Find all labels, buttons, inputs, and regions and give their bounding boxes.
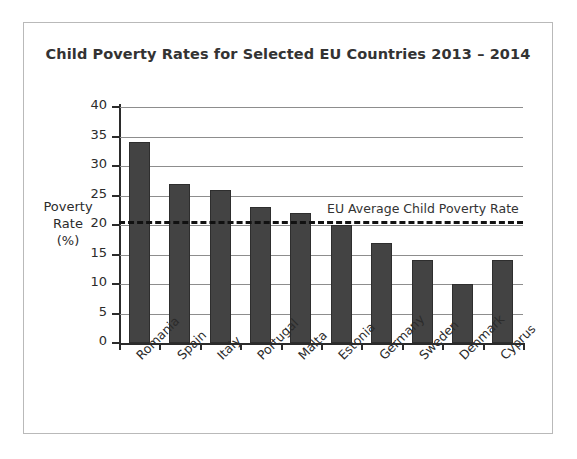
gridline <box>119 107 523 108</box>
y-axis-tick: 10 <box>112 283 120 285</box>
gridline <box>119 166 523 167</box>
chart-figure: Child Poverty Rates for Selected EU Coun… <box>0 0 577 459</box>
y-axis-tick-label: 5 <box>99 304 107 319</box>
y-axis-tick: 5 <box>112 313 120 315</box>
y-axis-tick: 30 <box>112 165 120 167</box>
x-axis-tick <box>119 343 121 350</box>
y-axis-tick-label: 30 <box>90 156 107 171</box>
y-axis-tick-label: 25 <box>90 186 107 201</box>
y-axis-tick: 25 <box>112 195 120 197</box>
y-axis-tick-label: 10 <box>90 274 107 289</box>
y-axis-label-line-1: Poverty <box>28 198 108 215</box>
y-axis-tick: 15 <box>112 254 120 256</box>
bar <box>210 190 231 343</box>
y-axis-tick-label: 35 <box>90 127 107 142</box>
y-axis-tick-label: 20 <box>90 215 107 230</box>
y-axis-tick-label: 15 <box>90 245 107 260</box>
plot-area: 0510152025303540 RomaniaSpainItalyPortug… <box>119 107 523 343</box>
chart-title: Child Poverty Rates for Selected EU Coun… <box>23 46 553 62</box>
y-axis-tick-label: 40 <box>90 97 107 112</box>
bar <box>331 225 352 343</box>
eu-average-label: EU Average Child Poverty Rate <box>327 201 519 216</box>
bar <box>129 142 150 343</box>
gridline <box>119 137 523 138</box>
bar <box>250 207 271 343</box>
eu-average-line <box>119 221 523 224</box>
y-axis-tick: 40 <box>112 106 120 108</box>
y-axis-tick: 35 <box>112 136 120 138</box>
y-axis-tick-label: 0 <box>99 333 107 348</box>
